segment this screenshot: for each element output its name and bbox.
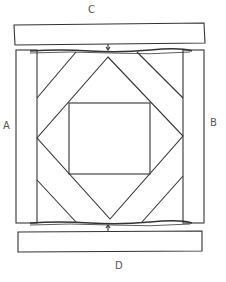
label-b: B [210, 117, 217, 128]
strip-c [14, 23, 205, 45]
strip-b [183, 50, 204, 223]
diamond [37, 57, 183, 219]
label-a: A [3, 120, 10, 131]
top-seam [30, 49, 192, 52]
band-tr [137, 52, 183, 98]
strip-d [18, 231, 202, 252]
strip-a [16, 50, 37, 223]
band-tl [37, 52, 76, 98]
quilt-assembly-diagram: C A B D [0, 0, 226, 282]
center-square [69, 103, 150, 174]
diagram-svg [0, 0, 226, 282]
bottom-seam [30, 221, 192, 224]
band-bl [37, 180, 76, 222]
label-d: D [115, 260, 123, 271]
label-c: C [88, 4, 95, 15]
band-br [142, 176, 183, 222]
